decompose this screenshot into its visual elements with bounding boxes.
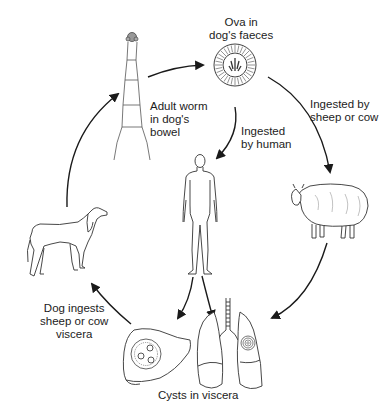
sheep-icon — [292, 184, 369, 238]
label-line: sheep or cow — [310, 111, 378, 124]
arrow-human-to-liver — [178, 277, 193, 318]
life-cycle-diagram: Ova in dog's faeces Adult worm in dog's … — [0, 0, 389, 412]
liver-icon — [123, 329, 190, 385]
arrow-human-to-lungs — [202, 276, 213, 318]
label-line: bowel — [150, 126, 208, 139]
arrow-worm-to-ova — [148, 65, 203, 77]
label-ingested-by-human: Ingested by human — [241, 125, 292, 151]
label-line: dog's faeces — [209, 29, 273, 42]
label-line: in dog's — [150, 113, 208, 126]
label-line: Adult worm — [150, 100, 208, 113]
arrow-sheep-to-viscera — [272, 243, 327, 318]
diagram-canvas — [0, 0, 389, 412]
lungs-icon — [197, 298, 262, 389]
label-cysts-in-viscera: Cysts in viscera — [158, 389, 239, 402]
egg-icon — [214, 44, 256, 86]
label-line: Ingested — [241, 125, 292, 138]
arrow-dog-to-worm — [67, 94, 118, 207]
human-figure-icon — [183, 155, 217, 275]
label-adult-worm: Adult worm in dog's bowel — [150, 100, 208, 139]
label-ingested-by-sheep: Ingested by sheep or cow — [310, 98, 378, 124]
label-line: Dog ingests — [40, 302, 108, 315]
label-line: sheep or cow — [40, 315, 108, 328]
label-line: Cysts in viscera — [158, 389, 239, 402]
arrow-ova-to-human — [217, 107, 236, 158]
label-line: viscera — [40, 328, 108, 341]
label-line: Ova in — [209, 16, 273, 29]
label-line: by human — [241, 138, 292, 151]
label-line: Ingested by — [310, 98, 378, 111]
dog-icon — [27, 208, 107, 276]
tapeworm-icon — [114, 33, 150, 161]
label-dog-ingests: Dog ingests sheep or cow viscera — [40, 302, 108, 341]
label-ova: Ova in dog's faeces — [209, 16, 273, 42]
